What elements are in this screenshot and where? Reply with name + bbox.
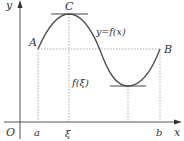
curve-f (38, 14, 160, 86)
x-axis-arrow-icon (174, 120, 182, 125)
tick-label-a: a (34, 127, 40, 138)
origin-label: O (6, 126, 15, 139)
tick-label-xi: ξ (65, 128, 71, 139)
graph-canvas: y x O a ξ b A C B y=f(x) f(ξ) (0, 0, 184, 141)
curve-label: y=f(x) (95, 26, 126, 37)
y-axis-arrow-icon (18, 0, 23, 8)
y-axis-label: y (5, 0, 13, 12)
point-label-c: C (65, 0, 74, 13)
tick-label-b: b (156, 127, 162, 138)
rolle-theorem-figure: y x O a ξ b A C B y=f(x) f(ξ) (0, 0, 184, 141)
x-axis-label: x (174, 126, 181, 139)
value-label-f-xi: f(ξ) (71, 77, 89, 88)
point-label-b: B (163, 43, 172, 56)
point-label-a: A (28, 36, 37, 49)
